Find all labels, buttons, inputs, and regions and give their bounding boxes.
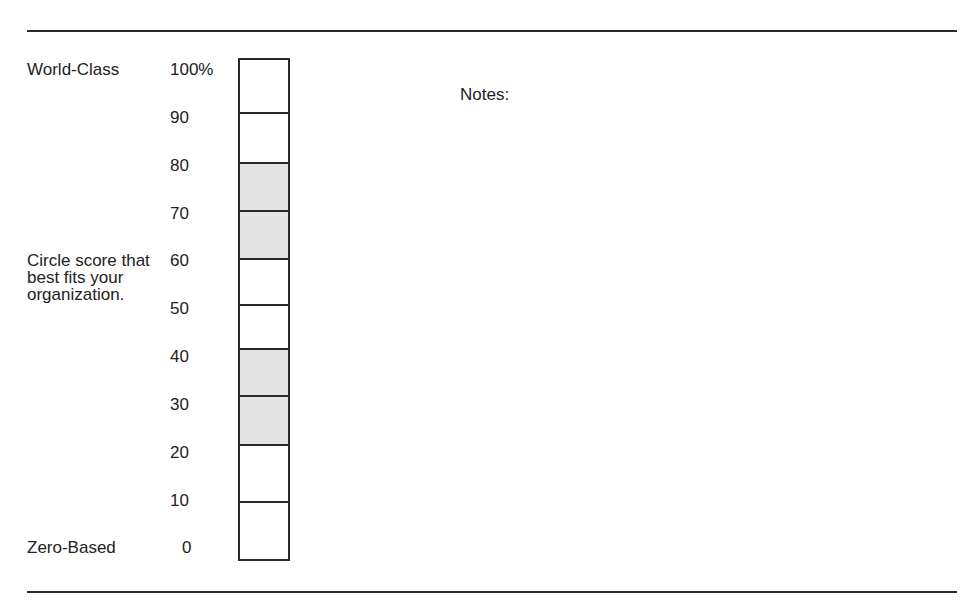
score-scale (238, 58, 290, 561)
tick-100: 100% (170, 61, 213, 78)
scale-cell-30-40[interactable] (240, 350, 288, 395)
bottom-rule (27, 591, 957, 593)
scale-cell-20-30[interactable] (240, 397, 288, 444)
tick-60: 60 (170, 252, 189, 269)
tick-90: 90 (170, 109, 189, 126)
scale-cell-90-100[interactable] (240, 60, 288, 112)
scale-cell-80-90[interactable] (240, 114, 288, 162)
tick-30: 30 (170, 396, 189, 413)
scale-cell-10-20[interactable] (240, 446, 288, 501)
scale-cell-40-50[interactable] (240, 306, 288, 348)
scale-cell-50-60[interactable] (240, 260, 288, 304)
tick-20: 20 (170, 444, 189, 461)
tick-50: 50 (170, 300, 189, 317)
tick-40: 40 (170, 348, 189, 365)
label-instructions: Circle score that best fits your organiz… (27, 252, 157, 303)
scale-cell-0-10[interactable] (240, 503, 288, 559)
tick-80: 80 (170, 157, 189, 174)
top-rule (27, 30, 957, 32)
label-world-class: World-Class (27, 61, 119, 78)
scale-cell-60-70[interactable] (240, 212, 288, 258)
label-zero-based: Zero-Based (27, 539, 116, 556)
tick-70: 70 (170, 205, 189, 222)
scale-cell-70-80[interactable] (240, 164, 288, 210)
notes-label: Notes: (460, 85, 509, 105)
tick-0: 0 (182, 539, 191, 556)
tick-10: 10 (170, 492, 189, 509)
